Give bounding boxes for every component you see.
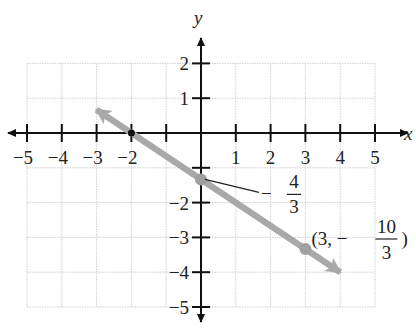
x-tick-label: −3: [82, 147, 102, 168]
y-tick-label: 1: [180, 88, 190, 109]
x-tick-label: 3: [301, 147, 311, 168]
x-axis-label: x: [403, 123, 413, 144]
y-tick-label: −3: [169, 227, 189, 248]
point-label-den: 3: [382, 242, 392, 263]
y-axis-label: y: [192, 7, 203, 28]
x-tick-label: 2: [266, 147, 276, 168]
intercept-label-den: 3: [289, 196, 299, 217]
y-tick-label: −4: [169, 262, 190, 283]
line-graph: −5−4−3−21234521−2−3−4−5xy −43(3, −103): [0, 0, 416, 328]
tick-labels: −5−4−3−21234521−2−3−4−5xy: [13, 7, 413, 318]
x-tick-label: 1: [231, 147, 241, 168]
x-tick-label: −2: [117, 147, 137, 168]
data-point: [299, 243, 311, 255]
x-tick-label: −5: [13, 147, 33, 168]
point-label-suffix: ): [401, 228, 407, 250]
intercept-label-sign: −: [261, 183, 272, 204]
x-tick-label: −4: [48, 147, 69, 168]
x-intercept-point: [128, 130, 135, 137]
y-tick-label: −5: [169, 297, 189, 318]
data-line: [97, 110, 341, 272]
y-tick-label: 2: [180, 53, 190, 74]
point-label-prefix: (3, −: [311, 228, 347, 250]
x-tick-label: 5: [370, 147, 380, 168]
point-label-num: 10: [377, 216, 396, 237]
y-tick-label: −2: [169, 193, 189, 214]
x-tick-label: 4: [335, 147, 345, 168]
intercept-label-num: 4: [289, 171, 299, 192]
